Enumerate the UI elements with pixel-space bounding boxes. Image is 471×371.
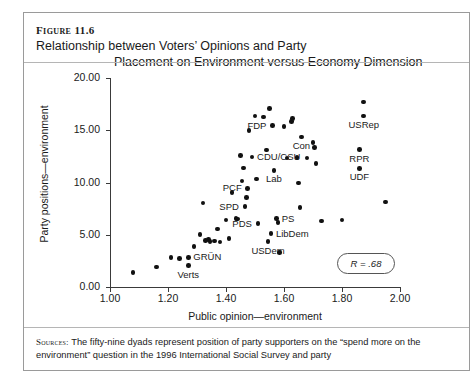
data-point — [340, 218, 345, 223]
data-point-label: SPD — [0, 201, 239, 212]
data-point-label: FDP — [0, 120, 266, 131]
data-point — [361, 114, 366, 119]
x-tick-label: 1.40 — [206, 292, 246, 304]
data-point — [186, 255, 191, 260]
data-point — [290, 116, 295, 121]
data-point — [241, 166, 246, 171]
data-point-label: Verts — [166, 269, 210, 280]
y-tick-label: 0.00 — [56, 280, 100, 292]
data-point-label: UDF — [337, 171, 381, 182]
data-point — [267, 106, 272, 111]
y-tick-label: 5.00 — [56, 228, 100, 240]
data-point — [245, 186, 250, 191]
data-point — [295, 155, 300, 160]
scatter-plot: Party positions—environment Public opini… — [0, 0, 471, 371]
data-point — [198, 232, 203, 237]
data-point — [218, 240, 223, 245]
data-point — [253, 114, 258, 119]
data-point — [282, 124, 287, 129]
y-tick — [106, 287, 110, 288]
data-point-label: Lab — [252, 173, 296, 184]
data-point-label: CDU/CSU — [257, 151, 300, 162]
data-point — [299, 135, 304, 140]
data-point — [312, 145, 317, 150]
y-axis-title: Party positions—environment — [38, 84, 50, 264]
data-point — [256, 221, 261, 226]
data-point — [169, 255, 174, 260]
data-point — [277, 250, 282, 255]
data-point-label: RPR — [337, 153, 381, 164]
data-point — [314, 161, 319, 166]
data-point — [243, 204, 248, 209]
y-tick — [106, 235, 110, 236]
data-point — [238, 153, 243, 158]
data-point — [212, 239, 217, 244]
data-point — [276, 220, 281, 225]
source-note: Sources: The fifty-nine dyads represent … — [36, 336, 446, 361]
data-point — [298, 205, 303, 210]
x-tick-label: 1.80 — [322, 292, 362, 304]
x-tick-label: 2.00 — [380, 292, 420, 304]
x-tick-label: 1.00 — [90, 292, 130, 304]
data-point-label: PDS — [0, 218, 252, 229]
source-keyword: Sources: — [36, 337, 69, 347]
data-point-label: PS — [282, 213, 295, 224]
correlation-annotation: R = .68 — [337, 253, 395, 274]
y-tick-label: 20.00 — [56, 71, 100, 83]
data-point — [244, 195, 249, 200]
figure-page: Figure 11.6 Relationship between Voters’… — [0, 0, 471, 371]
data-point — [131, 270, 136, 275]
data-point — [272, 168, 277, 173]
data-point — [357, 147, 362, 152]
data-point — [250, 155, 255, 160]
data-point — [319, 219, 324, 224]
data-point — [270, 123, 275, 128]
data-point — [154, 265, 159, 270]
data-point — [383, 200, 388, 205]
x-tick-label: 1.20 — [148, 292, 188, 304]
data-point — [186, 263, 191, 268]
data-point — [266, 239, 271, 244]
data-point — [296, 181, 301, 186]
data-point — [269, 231, 274, 236]
data-point — [177, 256, 182, 261]
data-point — [227, 236, 232, 241]
x-tick-label: 1.60 — [264, 292, 304, 304]
x-axis-line — [110, 287, 401, 288]
data-point-label: USRep — [342, 119, 386, 130]
data-point-label: LibDem — [276, 228, 309, 239]
data-point-label: Con — [279, 140, 323, 151]
data-point — [357, 166, 362, 171]
x-axis-title: Public opinion—environment — [155, 310, 355, 322]
y-tick — [106, 78, 110, 79]
source-text: The fifty-nine dyads represent position … — [36, 337, 421, 360]
data-point-label: USDem — [246, 245, 290, 256]
data-point-label: GRÜN — [193, 251, 221, 262]
data-point — [305, 156, 310, 161]
data-point-label: PCF — [0, 182, 242, 193]
data-point — [361, 100, 366, 105]
data-point — [192, 244, 197, 249]
